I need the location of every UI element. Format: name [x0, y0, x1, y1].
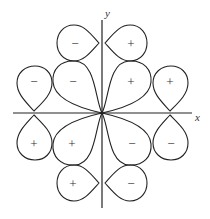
sign-outer-left-upper: − [30, 74, 37, 89]
sign-top-left-small: − [71, 36, 78, 51]
y-axis-label: y [104, 7, 110, 19]
sign-inner-left-upper: − [69, 74, 76, 89]
lobe-inner-left-upper [53, 61, 102, 113]
lobe-inner-right-lower [102, 113, 151, 165]
sign-inner-left-lower: + [68, 136, 75, 151]
lobe-top-right-small [105, 25, 147, 61]
x-axis-label: x [194, 111, 200, 123]
orbital-lobe-diagram: x y − + − − + + + + − − + − [0, 0, 210, 219]
sign-outer-right-lower: − [167, 136, 174, 151]
sign-inner-right-upper: + [127, 74, 134, 89]
sign-outer-right-upper: + [166, 74, 173, 89]
lobe-inner-left-lower [53, 113, 102, 165]
lobe-bottom-left-small [57, 165, 99, 201]
sign-bottom-right-small: − [127, 176, 134, 191]
sign-bottom-left-small: + [69, 176, 76, 191]
lobe-bottom-right-small [105, 165, 147, 201]
sign-inner-right-lower: − [128, 136, 135, 151]
sign-outer-left-lower: + [30, 136, 37, 151]
sign-top-right-small: + [127, 36, 134, 51]
